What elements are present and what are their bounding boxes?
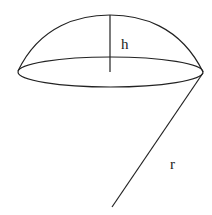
radius-line bbox=[112, 73, 203, 207]
radius-label: r bbox=[170, 156, 175, 172]
height-label: h bbox=[121, 36, 129, 52]
spherical-cap-diagram: h r bbox=[0, 0, 212, 215]
